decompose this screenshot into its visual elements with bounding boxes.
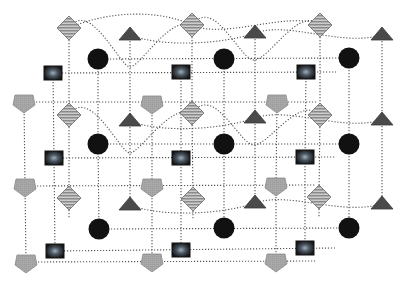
pentagon-node bbox=[15, 255, 37, 273]
edge-curve bbox=[192, 17, 320, 60]
triangle-node bbox=[371, 112, 393, 125]
square-node bbox=[172, 65, 190, 79]
square-node bbox=[297, 65, 315, 79]
square-node bbox=[296, 150, 314, 164]
circle-node bbox=[89, 219, 110, 240]
diamond-node bbox=[180, 101, 204, 125]
pentagon-node bbox=[265, 254, 287, 272]
circle-node bbox=[88, 49, 109, 70]
triangle-node bbox=[244, 195, 266, 208]
diamond-node bbox=[308, 103, 332, 127]
diamond-node bbox=[180, 13, 204, 37]
network-diagram bbox=[0, 0, 407, 282]
triangle-node bbox=[371, 196, 393, 209]
edges-layer bbox=[24, 14, 382, 262]
edge bbox=[54, 158, 55, 251]
diamond-node bbox=[57, 16, 81, 40]
edge bbox=[55, 248, 335, 251]
triangle-node bbox=[244, 25, 266, 38]
circle-node bbox=[214, 218, 235, 239]
triangle-node bbox=[119, 197, 141, 210]
edge bbox=[54, 157, 335, 158]
square-node bbox=[46, 244, 64, 258]
diamond-node bbox=[307, 185, 331, 209]
pentagon-node bbox=[141, 254, 163, 272]
triangle-node bbox=[371, 27, 393, 40]
edge bbox=[53, 73, 54, 158]
edge bbox=[53, 72, 336, 73]
triangle-node bbox=[244, 110, 266, 123]
edge bbox=[24, 102, 25, 186]
circle-node bbox=[214, 49, 235, 70]
nodes-layer bbox=[13, 13, 393, 273]
triangle-node bbox=[119, 113, 141, 126]
square-node bbox=[296, 241, 314, 255]
pentagon-node bbox=[266, 95, 288, 113]
diamond-node bbox=[57, 103, 81, 127]
square-node bbox=[172, 243, 190, 257]
circle-node bbox=[339, 218, 360, 239]
edge bbox=[98, 144, 99, 229]
circle-node bbox=[214, 134, 235, 155]
diamond-node bbox=[57, 186, 81, 210]
pentagon-node bbox=[14, 179, 36, 197]
circle-node bbox=[339, 48, 360, 69]
square-node bbox=[45, 151, 63, 165]
edge bbox=[25, 186, 26, 262]
pentagon-node bbox=[141, 179, 163, 197]
pentagon-node bbox=[13, 95, 35, 113]
triangle-node bbox=[119, 27, 141, 40]
square-node bbox=[44, 66, 62, 80]
edge bbox=[192, 113, 193, 199]
circle-node bbox=[339, 134, 360, 155]
pentagon-node bbox=[265, 178, 287, 196]
circle-node bbox=[88, 134, 109, 155]
pentagon-node bbox=[141, 96, 163, 114]
diamond-node bbox=[181, 187, 205, 211]
square-node bbox=[172, 151, 190, 165]
